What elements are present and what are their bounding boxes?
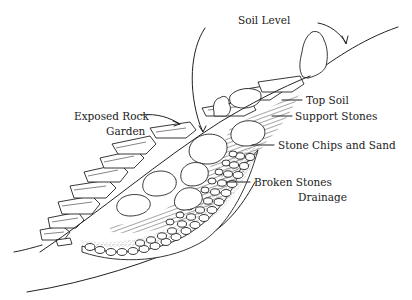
drainage-label: Drainage	[298, 191, 347, 204]
slope-left-ground	[14, 245, 42, 252]
support-stones-label: Support Stones	[295, 110, 377, 123]
small-shrub-icon	[213, 96, 230, 116]
exposed-rock-label-line2: Garden	[106, 125, 145, 138]
tall-shrub-icon	[300, 31, 327, 78]
soil-level-pointer	[192, 28, 205, 132]
stone-chips-label: Stone Chips and Sand	[278, 139, 396, 152]
exposed-rock-label-line1: Exposed Rock	[74, 110, 149, 123]
top-soil-label: Top Soil	[306, 94, 349, 107]
soil-level-label: Soil Level	[238, 14, 290, 27]
broken-stones-label: Broken Stones	[254, 176, 332, 189]
